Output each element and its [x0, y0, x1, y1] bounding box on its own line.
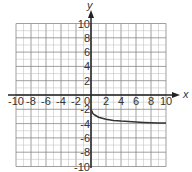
x-tick-label: 6 [133, 95, 139, 107]
y-tick-label: 2 [84, 75, 90, 87]
y-tick-label: 6 [84, 46, 90, 58]
y-axis-label: y [86, 0, 94, 11]
x-tick-label: 4 [118, 95, 124, 107]
x-tick-label: 2 [103, 95, 109, 107]
y-tick-label: -8 [80, 146, 90, 158]
x-tick-label: -8 [26, 95, 36, 107]
axes [8, 10, 180, 168]
y-tick-label: -6 [80, 132, 90, 144]
coordinate-plane: -10-8-6-4-20246810-10-8-6-4-2246810 x y [0, 0, 192, 171]
x-tick-label: 10 [160, 95, 172, 107]
x-axis-label: x [182, 88, 189, 100]
x-tick-label: -4 [56, 95, 66, 107]
y-tick-label: -2 [80, 103, 90, 115]
x-tick-label: -6 [41, 95, 51, 107]
y-tick-label: -4 [80, 118, 90, 130]
y-tick-label: 8 [84, 32, 90, 44]
y-tick-label: 10 [78, 18, 90, 30]
x-tick-label: -10 [8, 95, 24, 107]
x-axis-arrow-icon [172, 92, 180, 98]
y-tick-label: 4 [84, 60, 90, 72]
x-tick-label: 8 [148, 95, 154, 107]
y-tick-label: -10 [74, 161, 90, 172]
